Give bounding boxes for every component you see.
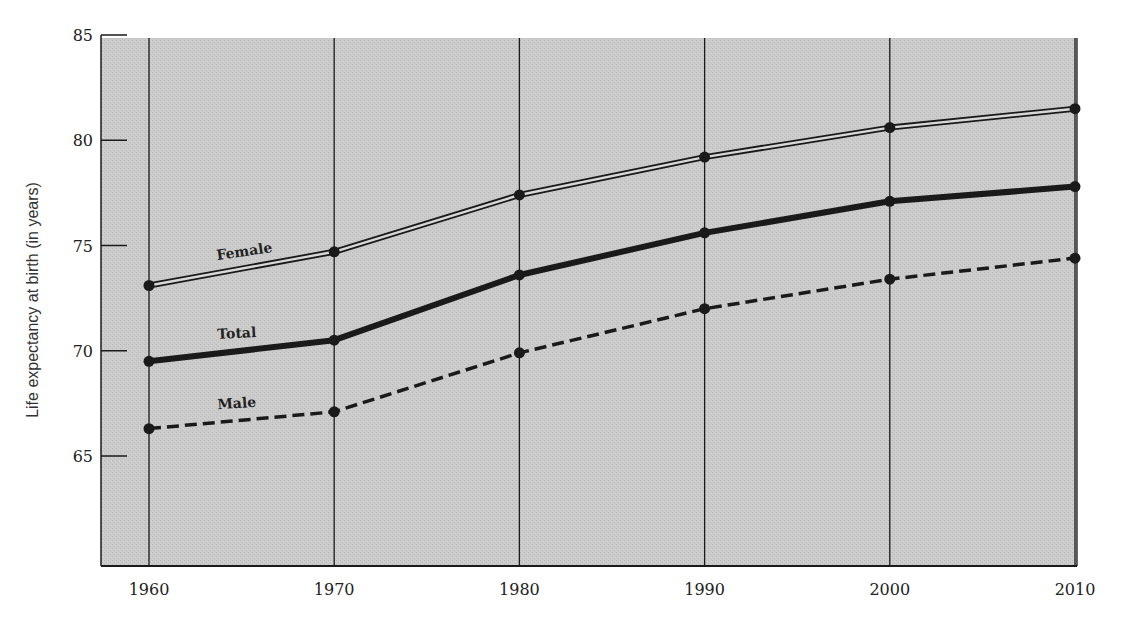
data-point [144, 280, 155, 291]
data-point [1070, 181, 1081, 192]
y-tick-label: 75 [73, 237, 93, 256]
data-point [144, 423, 155, 434]
y-tick-label: 85 [73, 26, 93, 45]
x-axis-ticks: 196019701980199020002010 [129, 580, 1096, 599]
series-label-male: Male [217, 394, 257, 413]
data-point [514, 347, 525, 358]
data-point [884, 196, 895, 207]
y-tick-label: 80 [73, 131, 93, 150]
y-tick-label: 70 [73, 342, 93, 361]
data-point [144, 356, 155, 367]
data-point [699, 152, 710, 163]
x-tick-label: 1990 [684, 580, 725, 599]
data-point [1070, 103, 1081, 114]
y-axis-label: Life expectancy at birth (in years) [24, 182, 41, 418]
y-tick-label: 65 [73, 447, 93, 466]
data-point [329, 406, 340, 417]
data-point [699, 227, 710, 238]
data-point [329, 335, 340, 346]
x-tick-label: 2000 [869, 580, 910, 599]
x-tick-label: 1960 [129, 580, 170, 599]
plot-area [101, 38, 1077, 566]
life-expectancy-chart: 6570758085 196019701980199020002010 Life… [0, 0, 1121, 628]
data-point [329, 246, 340, 257]
data-point [514, 269, 525, 280]
x-tick-label: 2010 [1055, 580, 1096, 599]
series-label-total: Total [217, 324, 257, 342]
data-point [1070, 253, 1081, 264]
x-tick-label: 1980 [499, 580, 540, 599]
data-point [884, 274, 895, 285]
data-point [699, 303, 710, 314]
x-tick-label: 1970 [314, 580, 355, 599]
data-point [884, 122, 895, 133]
data-point [514, 189, 525, 200]
